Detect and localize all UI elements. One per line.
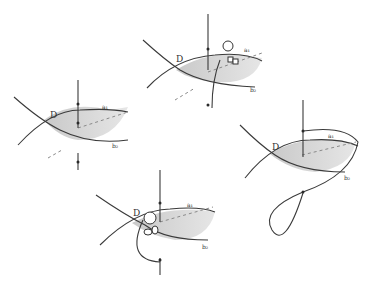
figure-head-icon: [144, 212, 156, 224]
panel-right: D a₁ b₂: [240, 100, 358, 235]
label-D: D: [272, 142, 279, 152]
label-b2: b₂: [202, 243, 209, 250]
label-a1: a₁: [102, 103, 108, 110]
label-D: D: [50, 110, 57, 120]
panel-left: D a₁ b₂: [14, 80, 128, 170]
label-b2: b₂: [112, 142, 119, 149]
figure-head-icon: [223, 41, 233, 51]
panel-top: D a₁ b₂: [143, 14, 262, 108]
label-a1: a₁: [187, 201, 193, 208]
label-b2: b₂: [344, 174, 351, 181]
label-a1: a₁: [244, 46, 250, 53]
label-b2: b₂: [250, 86, 257, 93]
label-D: D: [176, 54, 183, 64]
label-D: D: [133, 208, 140, 218]
panel-bottom: D a₁ b₂: [96, 170, 215, 275]
diagram-canvas: D a₁ b₂ D a₁ b₂ D a₁ b₂: [0, 0, 369, 288]
label-a1: a₁: [328, 132, 334, 139]
